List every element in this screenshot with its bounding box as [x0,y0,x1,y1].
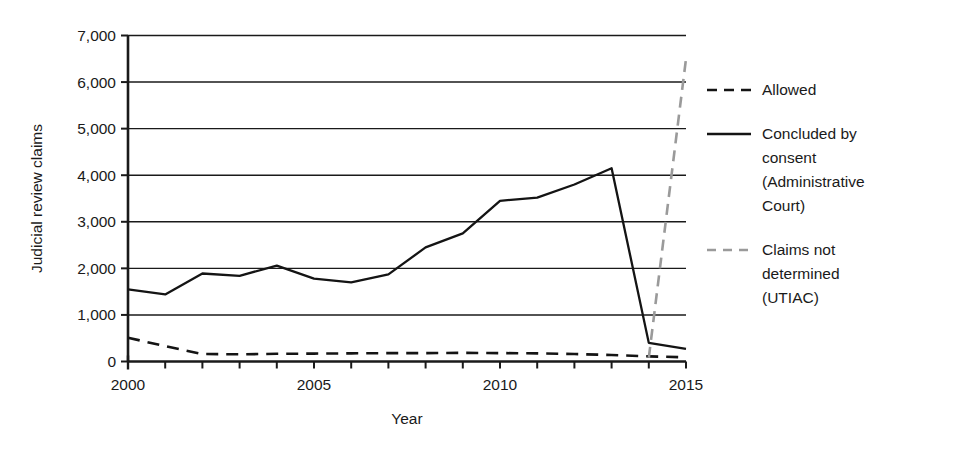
axes [128,36,686,362]
legend-label-1: Allowed [762,81,816,98]
series-line [649,59,686,358]
series-line [128,168,686,349]
y-tick-label: 7,000 [77,27,116,44]
chart-legend: AllowedConcluded byconsent(Administrativ… [707,81,865,306]
legend-label-3: determined [762,265,840,282]
x-axis-tick-labels: 2000200520102015 [111,376,703,393]
y-tick-label: 1,000 [77,306,116,323]
legend-label-3: (UTIAC) [762,289,819,306]
x-tick-label: 2000 [111,376,146,393]
x-tick-label: 2010 [483,376,518,393]
judicial-review-claims-chart: 01,0002,0003,0004,0005,0006,0007,000 200… [0,0,953,458]
chart-svg: 01,0002,0003,0004,0005,0006,0007,000 200… [0,0,953,458]
legend-label-2: (Administrative [762,173,865,190]
legend-label-2: Concluded by [762,125,857,142]
x-axis-title: Year [391,410,422,427]
legend-label-3: Claims not [762,241,836,258]
legend-label-2: Court) [762,197,805,214]
legend-label-2: consent [762,149,817,166]
y-tick-label: 4,000 [77,167,116,184]
data-series-lines [128,59,686,358]
y-tick-label: 5,000 [77,120,116,137]
y-tick-label: 2,000 [77,260,116,277]
y-tick-label: 0 [107,353,116,370]
y-axis-title: Judicial review claims [28,124,45,273]
x-tick-label: 2005 [297,376,331,393]
y-axis-tick-labels: 01,0002,0003,0004,0005,0006,0007,000 [77,27,116,370]
y-tick-label: 3,000 [77,213,116,230]
x-tick-label: 2015 [669,376,703,393]
series-line [128,338,686,358]
y-tick-label: 6,000 [77,74,116,91]
